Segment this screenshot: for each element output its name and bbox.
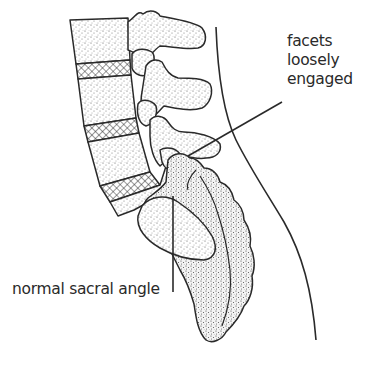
facets-label-line-3: engaged	[287, 70, 366, 89]
facets-leader-line	[188, 102, 282, 156]
facets-loosely-engaged-label: facets loosely engaged	[287, 32, 366, 89]
normal-sacral-angle-label: normal sacral angle	[12, 280, 160, 299]
facets-label-line-2: loosely	[287, 51, 366, 70]
vertebral-body-l2	[78, 75, 136, 126]
vertebral-body-l1	[70, 18, 130, 64]
facets-label-line-1: facets	[287, 32, 366, 51]
